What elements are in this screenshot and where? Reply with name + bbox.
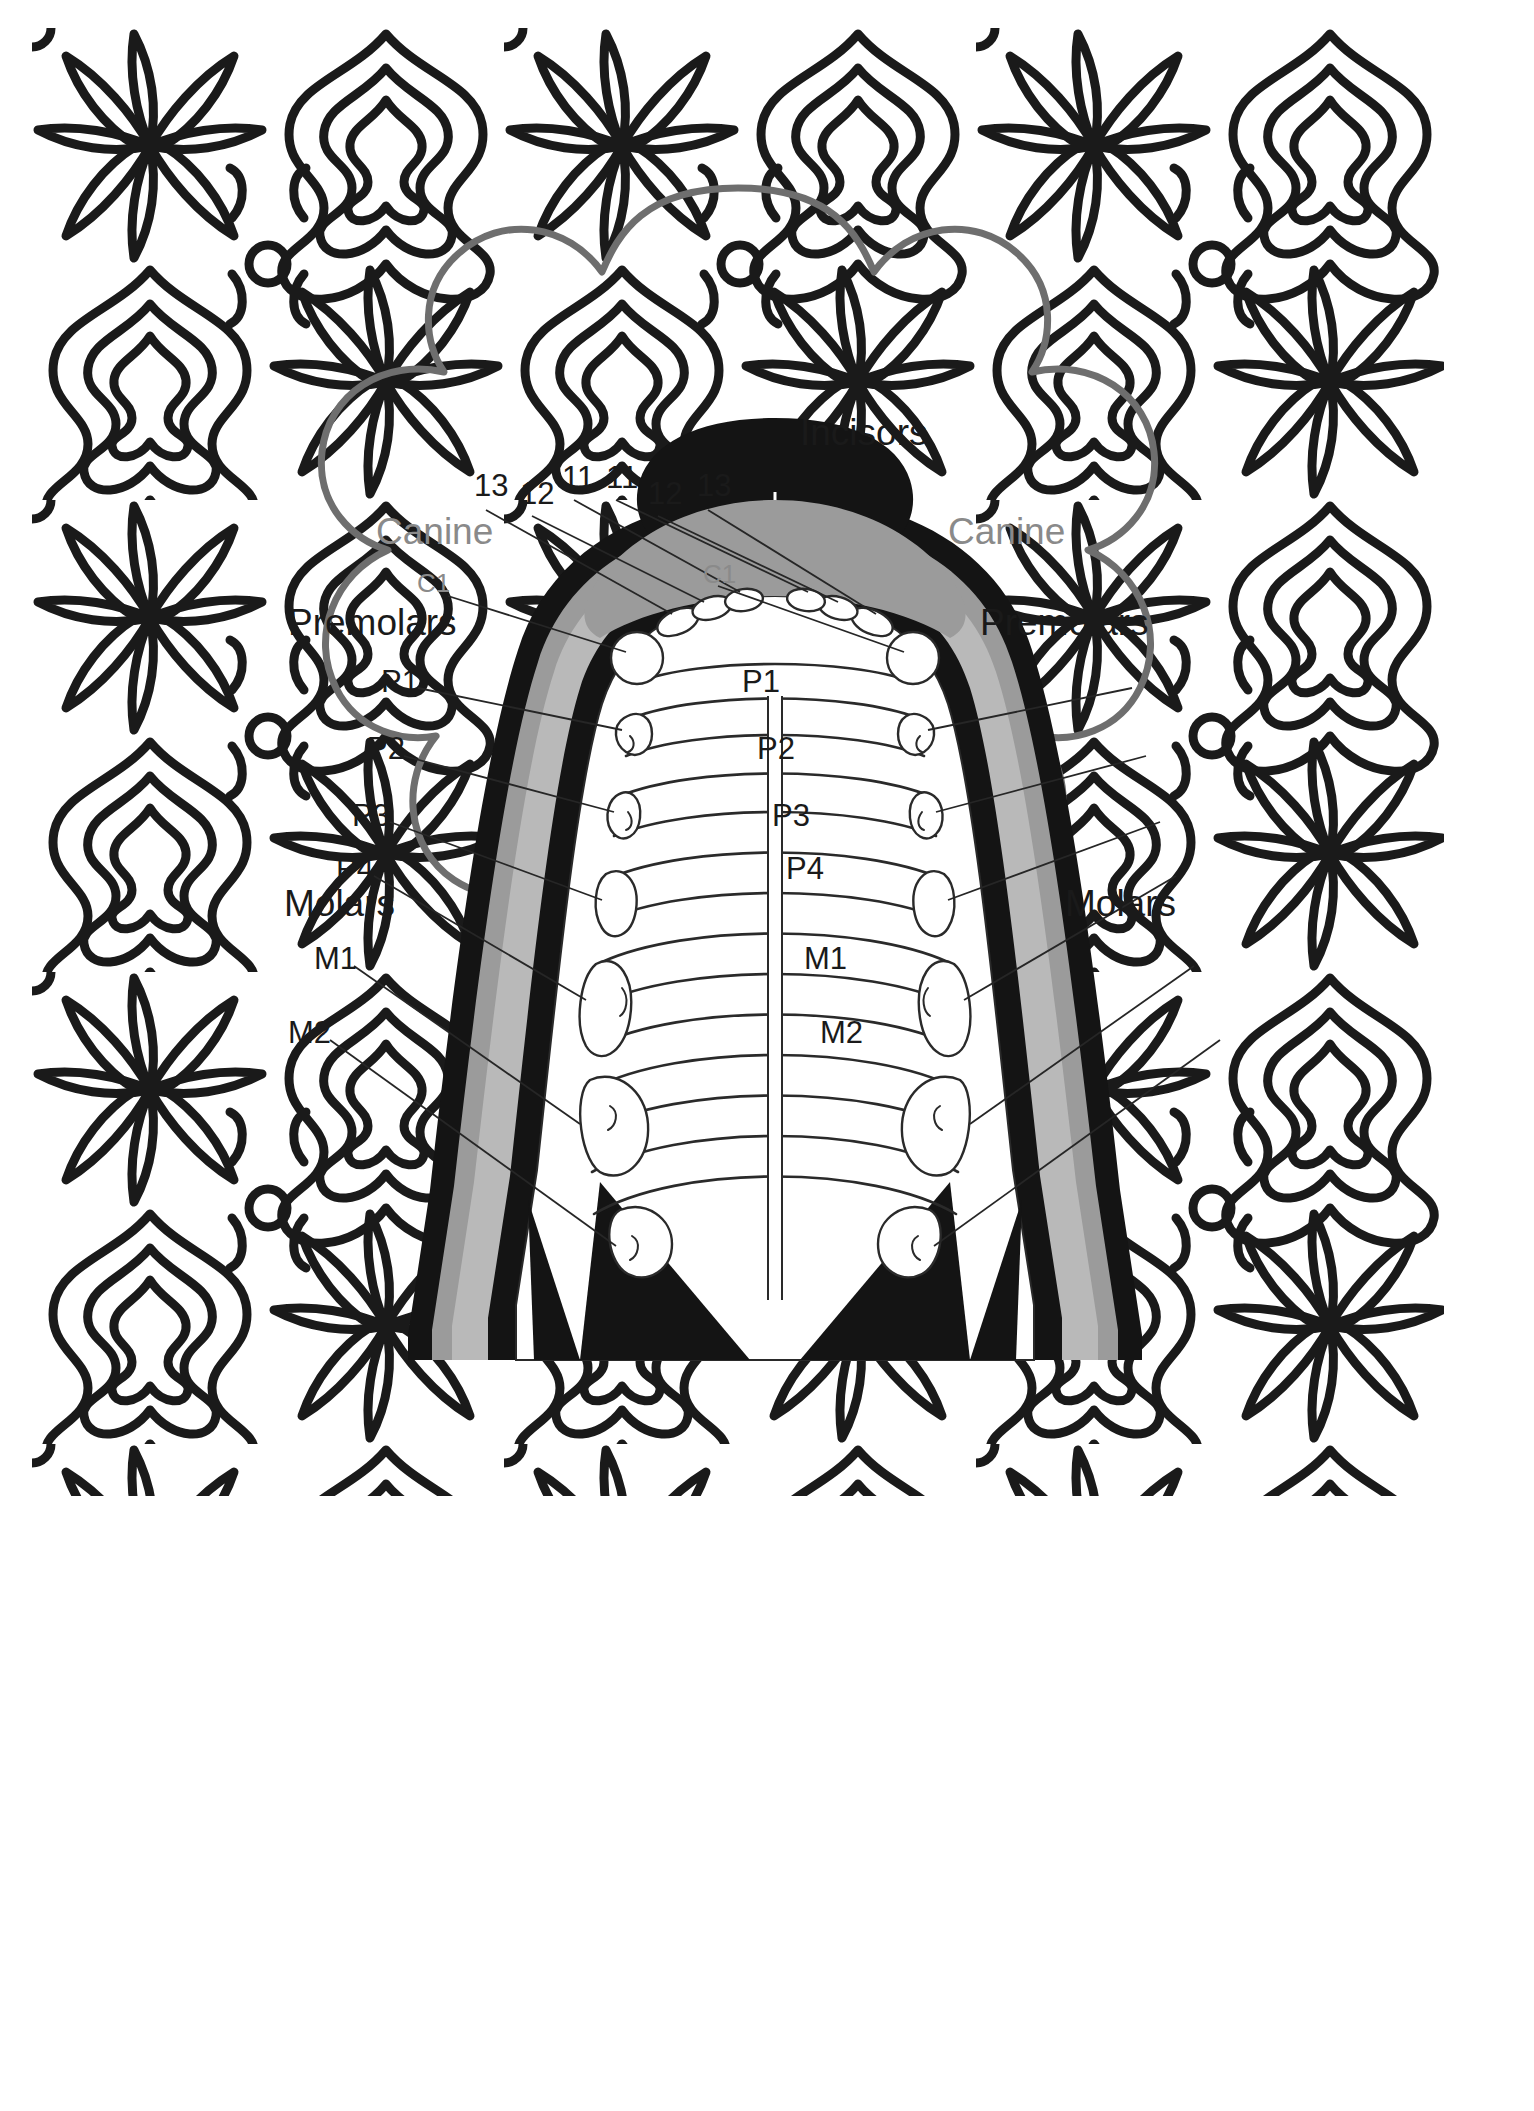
- tooth-label-i2-left: 12: [520, 478, 554, 509]
- tooth-p2-left: [607, 792, 640, 838]
- tooth-p3-right: [913, 871, 954, 936]
- group-label-molars-right: Molars: [1065, 885, 1176, 922]
- tooth-m2-right: [878, 1207, 941, 1277]
- tooth-label-c1-right: C1: [703, 561, 736, 587]
- tooth-label-i3-right: 13: [697, 470, 731, 501]
- tooth-p2-right: [910, 792, 943, 838]
- tooth-label-c1-left: C1: [417, 570, 450, 596]
- tooth-label-i1-left: 11: [562, 462, 594, 493]
- tooth-label-p2-right: P2: [757, 733, 795, 764]
- group-label-premolars-left: Premolars: [288, 604, 457, 641]
- group-label-premolars-right: Premolars: [980, 604, 1149, 641]
- tooth-label-i3-left: 13: [474, 470, 508, 501]
- tooth-c1-right: [887, 632, 939, 684]
- coloring-page: Incisors Canine Canine Premolars Premola…: [0, 0, 1534, 2111]
- tooth-label-m1-right: M1: [804, 943, 847, 974]
- group-label-canine-right: Canine: [948, 513, 1065, 550]
- tooth-label-p1-right: P1: [742, 666, 780, 697]
- tooth-label-p4-right: P4: [786, 853, 824, 884]
- group-label-molars-left: Molars: [284, 885, 395, 922]
- tooth-label-m1-left: M1: [314, 943, 357, 974]
- dentition-diagram: Incisors Canine Canine Premolars Premola…: [280, 400, 1270, 1560]
- tooth-label-m2-right: M2: [820, 1017, 863, 1048]
- tooth-p1-left: [616, 714, 652, 755]
- tooth-p1-right: [898, 714, 934, 755]
- tooth-label-i2-right: 12: [648, 478, 682, 509]
- group-label-incisors: Incisors: [800, 414, 927, 451]
- tooth-label-p3-left: P3: [352, 800, 390, 831]
- group-label-canine-left: Canine: [376, 513, 493, 550]
- tooth-label-p4-left: P4: [336, 853, 374, 884]
- tooth-label-p1-left: P1: [381, 666, 419, 697]
- tooth-m2-left: [609, 1207, 672, 1277]
- tooth-label-p3-right: P3: [772, 800, 810, 831]
- tooth-label-p2-left: P2: [367, 733, 405, 764]
- tooth-c1-left: [611, 632, 663, 684]
- tooth-label-m2-left: M2: [288, 1017, 331, 1048]
- tooth-label-i1-right: 11: [606, 462, 638, 493]
- tooth-p3-left: [596, 871, 637, 936]
